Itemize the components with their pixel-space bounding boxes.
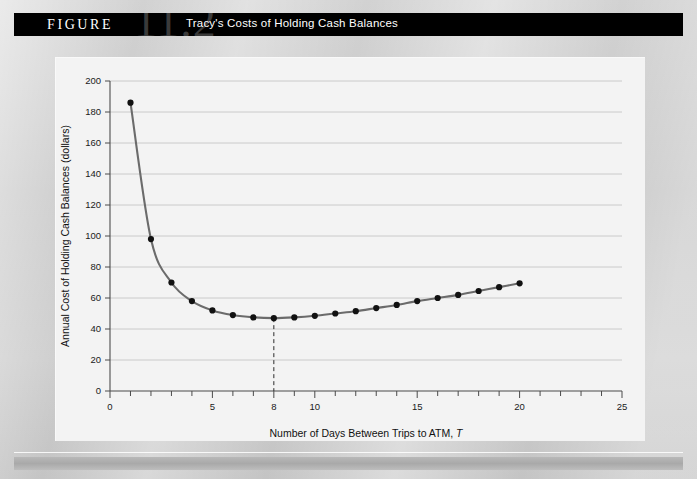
data-point-marker <box>230 312 236 318</box>
y-tick-label: 180 <box>85 106 101 117</box>
x-axis-title: Number of Days Between Trips to ATM, T <box>270 427 465 439</box>
y-tick-label: 100 <box>85 230 101 241</box>
figure-page: FIGURE 11.2 Tracy's Costs of Holding Cas… <box>0 0 697 479</box>
y-axis-tick-labels: 020406080100120140160180200 <box>85 75 101 396</box>
data-point-marker <box>496 284 502 290</box>
chart-gridlines <box>110 81 622 360</box>
figure-title: Tracy's Costs of Holding Cash Balances <box>186 17 398 29</box>
x-tick-label: 10 <box>310 401 321 412</box>
data-point-marker <box>455 292 461 298</box>
data-point-marker <box>394 302 400 308</box>
y-tick-label: 0 <box>96 385 101 396</box>
data-point-markers <box>127 100 522 322</box>
chart-plot-area: 020406080100120140160180200 05810152025 … <box>55 57 645 441</box>
y-tick-label: 80 <box>90 261 101 272</box>
x-tick-label: 25 <box>617 401 628 412</box>
figure-label: FIGURE <box>47 17 113 33</box>
data-point-marker <box>291 314 297 320</box>
data-point-marker <box>189 298 195 304</box>
y-tick-label: 200 <box>85 75 101 86</box>
x-tick-label: 5 <box>210 401 215 412</box>
figure-panel: 020406080100120140160180200 05810152025 … <box>55 57 645 441</box>
y-axis-title: Annual Cost of Holding Cash Balances (do… <box>59 125 71 347</box>
cost-curve-chart: 020406080100120140160180200 05810152025 … <box>55 57 645 441</box>
x-tick-label: 20 <box>514 401 525 412</box>
y-tick-label: 160 <box>85 137 101 148</box>
data-point-marker <box>414 298 420 304</box>
data-point-marker <box>312 313 318 319</box>
x-axis-tick-labels: 05810152025 <box>107 401 627 412</box>
x-tick-label: 15 <box>412 401 423 412</box>
data-point-marker <box>517 280 523 286</box>
y-tick-label: 120 <box>85 199 101 210</box>
data-point-marker <box>332 310 338 316</box>
data-point-marker <box>271 315 277 321</box>
y-tick-label: 60 <box>90 292 101 303</box>
cost-curve <box>130 103 519 318</box>
bottom-divider-highlight <box>14 452 683 453</box>
y-tick-label: 20 <box>90 354 101 365</box>
bottom-divider-bar <box>14 457 683 470</box>
y-tick-label: 40 <box>90 323 101 334</box>
y-tick-label: 140 <box>85 168 101 179</box>
data-point-marker <box>250 314 256 320</box>
x-axis-ticks <box>110 391 622 398</box>
data-point-marker <box>353 308 359 314</box>
x-tick-label: 8 <box>271 401 276 412</box>
figure-header-bar: FIGURE 11.2 Tracy's Costs of Holding Cas… <box>14 13 683 36</box>
data-point-marker <box>148 236 154 242</box>
data-point-marker <box>209 307 215 313</box>
data-point-marker <box>168 279 174 285</box>
y-axis-ticks <box>105 81 110 391</box>
data-point-marker <box>127 100 133 106</box>
data-point-marker <box>435 295 441 301</box>
x-tick-label: 0 <box>107 401 112 412</box>
data-point-marker <box>476 288 482 294</box>
data-point-marker <box>373 305 379 311</box>
